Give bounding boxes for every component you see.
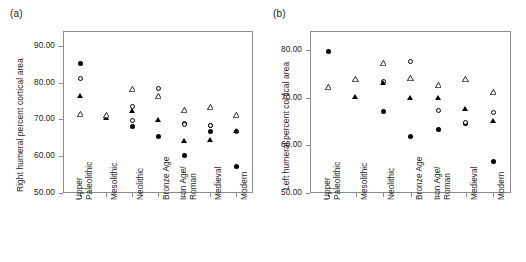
x-tick-label: Modern <box>240 172 250 200</box>
marker-filled-triangle <box>435 95 441 100</box>
x-tick-label: Bronze Age <box>415 157 425 200</box>
marker-filled-circle <box>208 129 213 134</box>
x-tick-mark <box>132 193 133 197</box>
y-tick-label: 80.00 <box>268 45 302 54</box>
marker-filled-circle <box>234 164 239 169</box>
marker-filled-triangle <box>490 118 496 123</box>
x-tick-mark <box>236 193 237 197</box>
y-tick-mark <box>59 119 63 120</box>
marker-open-circle <box>436 108 441 113</box>
marker-filled-circle <box>326 49 331 54</box>
x-tick-mark <box>383 193 384 197</box>
y-tick-mark <box>59 83 63 84</box>
panel-a: (a) Right humeral percent cortical area … <box>0 0 263 262</box>
y-tick-label: 90.00 <box>21 41 55 50</box>
x-tick-label: Mesolithic <box>110 163 120 200</box>
marker-filled-circle <box>436 127 441 132</box>
marker-filled-triangle <box>207 137 213 142</box>
panel-b-y-axis-label: Left humeral percent cortical area <box>281 62 291 190</box>
y-tick-label: 80.00 <box>21 78 55 87</box>
marker-filled-circle <box>381 109 386 114</box>
y-tick-label: 70.00 <box>268 93 302 102</box>
y-tick-label: 60.00 <box>21 151 55 160</box>
y-tick-mark <box>306 50 310 51</box>
marker-filled-circle <box>182 153 187 158</box>
y-tick-label: 50.00 <box>268 188 302 197</box>
marker-open-circle <box>156 86 161 91</box>
marker-filled-triangle <box>380 80 386 85</box>
y-tick-label: 50.00 <box>21 188 55 197</box>
panel-b: (b) Left humeral percent cortical area 5… <box>263 0 526 262</box>
marker-filled-triangle <box>352 94 358 99</box>
y-tick-mark <box>59 193 63 194</box>
marker-open-circle <box>130 104 135 109</box>
panel-a-label: (a) <box>10 8 23 19</box>
x-tick-label: Medieval <box>470 166 480 200</box>
marker-filled-circle <box>491 159 496 164</box>
marker-filled-triangle <box>462 106 468 111</box>
y-tick-mark <box>306 193 310 194</box>
x-tick-label: UpperPaleolithic <box>323 162 342 200</box>
marker-filled-triangle <box>181 138 187 143</box>
y-tick-label: 70.00 <box>21 114 55 123</box>
marker-open-circle <box>208 123 213 128</box>
figure-scatter-humeral-cortical-area: (a) Right humeral percent cortical area … <box>0 0 526 262</box>
x-tick-label: Modern <box>497 172 507 200</box>
panel-b-label: (b) <box>273 8 286 19</box>
y-tick-mark <box>59 156 63 157</box>
x-tick-mark <box>466 193 467 197</box>
marker-filled-circle <box>130 124 135 129</box>
marker-open-circle <box>182 122 187 127</box>
marker-filled-circle <box>78 61 83 66</box>
marker-filled-circle <box>156 134 161 139</box>
marker-open-circle <box>130 118 135 123</box>
marker-open-circle <box>78 76 83 81</box>
x-tick-label: Neolithic <box>387 168 397 200</box>
x-tick-mark <box>106 193 107 197</box>
x-tick-mark <box>356 193 357 197</box>
x-tick-label: Bronze Age <box>162 157 172 200</box>
x-tick-label: Neolithic <box>136 168 146 200</box>
y-tick-mark <box>306 98 310 99</box>
x-tick-mark <box>158 193 159 197</box>
y-tick-mark <box>59 46 63 47</box>
x-tick-mark <box>493 193 494 197</box>
marker-filled-triangle <box>77 93 83 98</box>
x-tick-label: UpperPaleolithic <box>75 162 94 200</box>
y-tick-mark <box>306 145 310 146</box>
x-tick-mark <box>411 193 412 197</box>
y-tick-label: 60.00 <box>268 140 302 149</box>
marker-open-circle <box>491 110 496 115</box>
x-tick-label: Medieval <box>214 166 224 200</box>
x-tick-label: Iron Age/Roman <box>433 166 452 200</box>
marker-filled-triangle <box>407 95 413 100</box>
x-tick-mark <box>210 193 211 197</box>
marker-filled-triangle <box>233 128 239 133</box>
x-tick-label: Mesolithic <box>360 163 370 200</box>
x-tick-label: Iron Age/Roman <box>179 166 198 200</box>
marker-filled-triangle <box>155 117 161 122</box>
